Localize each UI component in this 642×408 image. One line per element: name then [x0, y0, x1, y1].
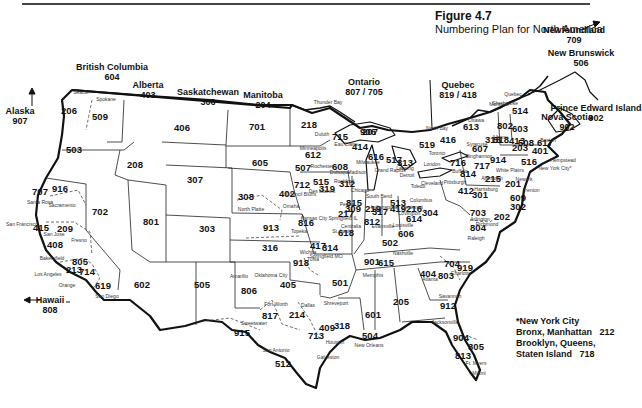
region-ontario: Ontario807 / 705 — [345, 77, 383, 97]
city-memphis: Memphis — [363, 272, 383, 278]
area-code-714: 714 — [79, 267, 95, 277]
region-name: Prince Edward Island — [550, 103, 641, 113]
area-code-606: 606 — [398, 229, 414, 239]
area-code-408: 408 — [47, 240, 63, 250]
city-north-platte: North Platte — [238, 206, 264, 212]
area-code-701: 701 — [249, 122, 265, 132]
area-code-603: 603 — [512, 124, 528, 134]
city-minneapolis: Minneapolis — [300, 145, 327, 151]
area-code-601: 601 — [365, 310, 381, 320]
region-code: 709 — [543, 35, 605, 45]
area-code-916: 916 — [52, 184, 68, 194]
area-code-218: 218 — [301, 120, 317, 130]
region-code: 506 — [548, 58, 615, 68]
area-code-712: 712 — [294, 180, 310, 190]
area-code-612: 612 — [305, 150, 321, 160]
city-allentown: Allentown — [481, 175, 503, 181]
area-code-501: 501 — [332, 278, 348, 288]
city-eau-claire: Eau Claire — [334, 141, 357, 147]
region-alberta: Alberta403 — [132, 80, 163, 100]
area-code-416: 416 — [440, 135, 456, 145]
area-code-304: 304 — [422, 208, 438, 218]
region-saskatchewan: Saskatchewan306 — [177, 87, 239, 107]
city-new-orleans: New Orleans — [355, 342, 384, 348]
city-savannah: Savannah — [439, 293, 462, 299]
city-charlotte: Charlotte — [451, 270, 471, 276]
region-hawaii: Hawaii808 — [36, 295, 65, 315]
region-name: Saskatchewan — [177, 87, 239, 97]
city-los-angeles: Los Angeles — [34, 271, 61, 277]
area-code-605: 605 — [252, 158, 268, 168]
area-code-707: 707 — [32, 187, 48, 197]
area-code-702: 702 — [92, 207, 108, 217]
city-fort-worth: Fort Worth — [264, 301, 288, 307]
city-syracuse: Syracuse — [467, 141, 488, 147]
city-louisville: Louisville — [393, 222, 414, 228]
region-code: 907 — [5, 116, 34, 126]
city-trenton: Trenton — [522, 187, 539, 193]
region-code: 204 — [243, 100, 283, 110]
city-boston: Boston — [540, 137, 556, 143]
area-code-806: 806 — [241, 286, 257, 296]
region-name: British Columbia — [76, 62, 148, 72]
footnote-line4: Staten Island 718 — [516, 349, 595, 359]
city-raleigh: Raleigh — [468, 235, 485, 241]
city-north-bay: North Bay — [426, 125, 448, 131]
area-code-308: 308 — [238, 192, 254, 202]
city-ottawa: Ottawa — [468, 117, 484, 123]
city-binghamton: Binghamton — [466, 153, 493, 159]
region-name: Manitoba — [243, 90, 283, 100]
city-harrisburg: Harrisburg — [474, 186, 497, 192]
area-code-307: 307 — [187, 175, 203, 185]
city-madison: Madison — [348, 169, 367, 175]
area-code-915: 915 — [234, 328, 250, 338]
city-sweetwater: Sweetwater — [241, 320, 267, 326]
city-springfield-il: Springfield IL — [328, 215, 357, 221]
city-amarillo: Amarillo — [230, 273, 248, 279]
city-san-antonio: San Antonio — [263, 347, 290, 353]
region-alaska: Alaska907 — [5, 106, 34, 126]
area-code-615: 615 — [378, 258, 394, 268]
city-hempstead: Hempstead — [550, 157, 576, 163]
area-code-405: 405 — [280, 280, 296, 290]
footnote-line3: Brooklyn, Queens, — [516, 338, 596, 348]
city-nashville: Nashville — [393, 250, 413, 256]
city-tulsa: Tulsa — [307, 256, 319, 262]
area-code-303: 303 — [199, 224, 215, 234]
area-code-207: 207 — [362, 127, 378, 137]
region-new-brunswick: New Brunswick506 — [548, 48, 615, 68]
city-san-jose: San Jose — [44, 231, 65, 237]
region-prince-edward-island: Prince Edward Island902 — [550, 103, 641, 123]
city-council-bluffs: Council Bluffs — [286, 191, 316, 197]
area-code-613: 613 — [463, 122, 479, 132]
city-richmond: Richmond — [476, 221, 499, 227]
region-newfoundland: Newfoundland709 — [543, 25, 605, 45]
area-code-516: 516 — [521, 157, 537, 167]
area-code-316: 316 — [262, 243, 278, 253]
city-duluth: Duluth — [315, 131, 329, 137]
city-detroit: Detroit — [400, 172, 415, 178]
city-indianapolis: Indianapolis — [371, 204, 398, 210]
region-british-columbia: British Columbia604 — [76, 62, 148, 82]
area-code-401: 401 — [532, 146, 548, 156]
region-name: Alberta — [132, 80, 163, 90]
city-spokane: Spokane — [96, 96, 116, 102]
city-kansas-city: Kansas City — [301, 215, 328, 221]
area-code-512: 512 — [275, 359, 291, 369]
area-code-507: 507 — [295, 163, 311, 173]
region-quebec: Quebec819 / 418 — [439, 80, 477, 100]
city-rockford: Rockford — [334, 178, 354, 184]
area-code-519: 519 — [419, 140, 435, 150]
area-code-901: 901 — [364, 257, 380, 267]
city-shreveport: Shreveport — [324, 300, 348, 306]
city-evansville: Evansville — [372, 223, 395, 229]
city-dallas: Dallas — [301, 302, 315, 308]
region-code: 819 / 418 — [439, 90, 477, 100]
city-wichita: Wichita — [300, 249, 316, 255]
region-name: Hawaii — [36, 295, 65, 305]
city-st-louis: St. Louis — [332, 228, 351, 234]
area-code-504: 504 — [362, 331, 378, 341]
region-name: Alaska — [5, 106, 34, 116]
city-ft-myers: Ft. Myers — [466, 360, 487, 366]
city-columbus: Columbus — [410, 197, 433, 203]
